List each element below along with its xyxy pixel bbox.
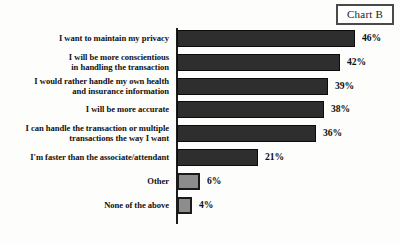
- bar-row: Other6%: [0, 170, 400, 194]
- bar: [177, 173, 200, 190]
- bar-value-label: 36%: [323, 127, 342, 138]
- bar-row: None of the above4%: [0, 194, 400, 218]
- bar-category-label: Other: [0, 176, 169, 186]
- bar-value-label: 38%: [331, 103, 350, 114]
- bar: [177, 149, 258, 166]
- bar-category-label: I will be more accurate: [0, 104, 169, 114]
- bar: [177, 54, 340, 71]
- bar-category-label-line: I will be more conscientious: [0, 52, 169, 62]
- chart-title-text: Chart B: [347, 8, 383, 20]
- bar-row: I'm faster than the associate/attendant2…: [0, 146, 400, 170]
- bar-category-label-line: I want to maintain my privacy: [0, 33, 169, 43]
- bar-category-label: I can handle the transaction or multiple…: [0, 123, 169, 143]
- bar-row: I would rather handle my own healthand i…: [0, 75, 400, 99]
- bar-row: I can handle the transaction or multiple…: [0, 122, 400, 146]
- bar-category-label-line: I can handle the transaction or multiple: [0, 123, 169, 133]
- bar-row: I will be more conscientiousin handling …: [0, 51, 400, 75]
- bar-category-label-line: I'm faster than the associate/attendant: [0, 152, 169, 162]
- bar: [177, 125, 316, 142]
- bar: [177, 78, 328, 95]
- bar-row: I want to maintain my privacy46%: [0, 27, 400, 51]
- bar-row: I will be more accurate38%: [0, 98, 400, 122]
- bar-category-label-line: in handling the transaction: [0, 62, 169, 72]
- bar: [177, 197, 192, 214]
- bar-category-label-line: Other: [0, 176, 169, 186]
- bar-category-label-line: I will be more accurate: [0, 104, 169, 114]
- bar: [177, 30, 355, 47]
- bar-category-label: I would rather handle my own healthand i…: [0, 76, 169, 96]
- bar-category-label: None of the above: [0, 200, 169, 210]
- chart-title-badge: Chart B: [336, 4, 394, 25]
- bar-category-label-line: transactions the way I want: [0, 133, 169, 143]
- bar-value-label: 39%: [335, 80, 354, 91]
- bar-category-label-line: I would rather handle my own health: [0, 76, 169, 86]
- bar-value-label: 42%: [347, 56, 366, 67]
- bar-category-label-line: None of the above: [0, 200, 169, 210]
- bar-value-label: 4%: [199, 199, 213, 210]
- bar-value-label: 46%: [362, 32, 381, 43]
- bar-category-label: I want to maintain my privacy: [0, 33, 169, 43]
- bar-category-label: I will be more conscientiousin handling …: [0, 52, 169, 72]
- bar-value-label: 6%: [207, 175, 221, 186]
- chart-container: Chart B I want to maintain my privacy46%…: [0, 0, 400, 243]
- plot-area: I want to maintain my privacy46%I will b…: [0, 26, 400, 226]
- bar: [177, 101, 324, 118]
- bar-value-label: 21%: [265, 151, 284, 162]
- bar-category-label-line: and insurance information: [0, 86, 169, 96]
- bar-category-label: I'm faster than the associate/attendant: [0, 152, 169, 162]
